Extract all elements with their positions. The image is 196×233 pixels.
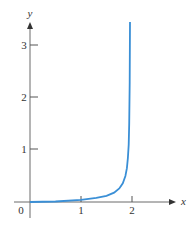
y-tick-label-3: 3 [21,39,27,51]
origin-label: 0 [18,204,24,216]
x-axis-label: x [180,195,186,207]
x-axis-arrow-icon [169,199,176,205]
y-tick-label-1: 1 [21,143,27,155]
x-tick-label-1: 1 [78,204,84,216]
data-curve [30,22,130,202]
chart: 0 1 2 1 2 3 x y [0,0,196,233]
y-axis-arrow-icon [27,22,33,29]
x-tick-label-2: 2 [129,204,135,216]
y-tick-label-2: 2 [21,91,27,103]
y-axis-label: y [27,7,33,19]
